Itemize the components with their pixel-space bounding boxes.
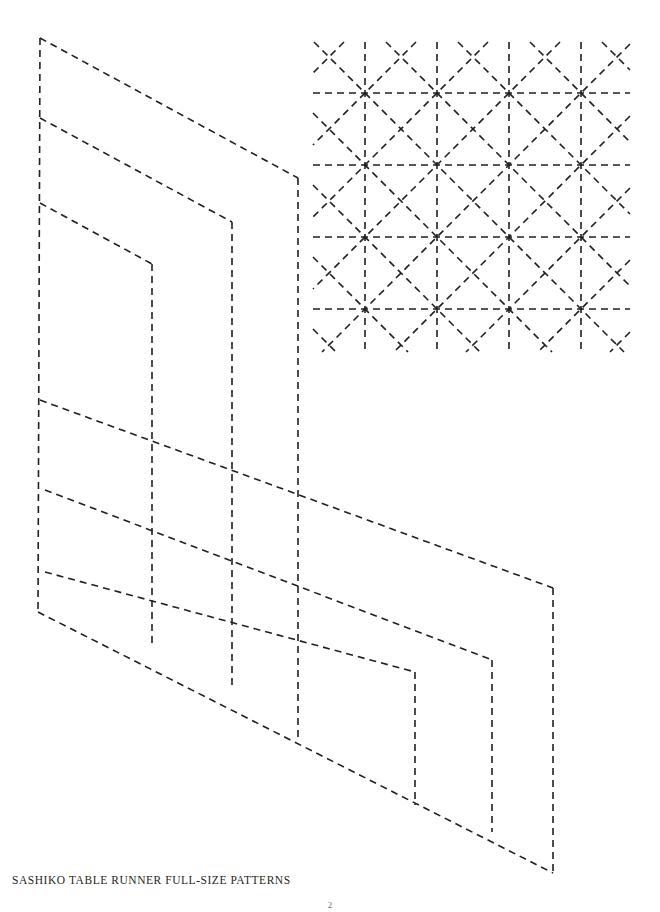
page-number: 2 [328,900,333,910]
upper-band-2-top-edge [40,203,152,264]
outer-lower-panel-top-edge [40,400,553,588]
asanoha-diagonal-up-line [538,260,630,352]
asanoha-diagonal-down-line [313,329,336,352]
outer-lower-panel-bottom-edge [38,612,553,873]
asanoha-sashiko-pattern-group [313,42,630,352]
page-canvas: SASHIKO TABLE RUNNER FULL-SIZE PATTERNS … [0,0,660,912]
asanoha-diagonal-down-line [313,185,480,352]
asanoha-diagonal-down-line [458,42,630,214]
asanoha-diagonal-down-line [602,42,630,70]
asanoha-diagonal-up-line [466,188,630,352]
upper-band-1-top-edge [40,118,232,222]
outer-upper-panel-left-edge [38,38,40,612]
asanoha-diagonal-down-line [313,257,408,352]
asanoha-diagonal-down-line [530,42,630,142]
lower-band-1-top-edge [45,490,492,660]
asanoha-diagonal-down-line [313,113,552,352]
outer-upper-panel-top-edge [40,38,298,178]
pattern-figure [0,0,660,912]
table-runner-template-group [38,38,553,873]
figure-caption: SASHIKO TABLE RUNNER FULL-SIZE PATTERNS [12,874,291,886]
asanoha-diagonal-down-line [386,42,630,286]
asanoha-diagonal-up-line [394,116,630,352]
lower-band-2-top-edge [45,572,415,672]
